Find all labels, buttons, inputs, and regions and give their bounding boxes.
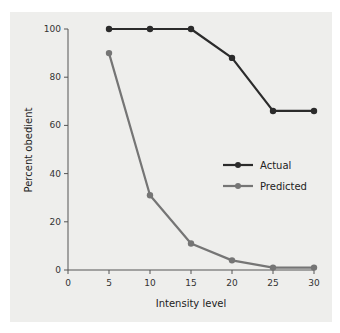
x-tick-label: 30	[308, 278, 320, 288]
axes: 020406080100051015202530	[44, 24, 320, 288]
data-point-actual	[106, 26, 112, 32]
data-point-predicted	[106, 50, 112, 56]
series-group	[106, 26, 317, 271]
data-point-actual	[311, 108, 317, 114]
legend-marker-predicted-icon	[235, 183, 241, 189]
legend-item-predicted: Predicted	[223, 181, 307, 192]
x-tick-label: 10	[144, 278, 156, 288]
legend-marker-actual-icon	[235, 162, 241, 168]
data-point-actual	[270, 108, 276, 114]
legend: Actual Predicted	[223, 160, 307, 192]
legend-label-predicted: Predicted	[260, 181, 307, 192]
x-tick-label: 5	[106, 278, 112, 288]
data-point-actual	[229, 55, 235, 61]
x-tick-label: 15	[185, 278, 196, 288]
legend-item-actual: Actual	[223, 160, 291, 171]
y-tick-label: 60	[50, 120, 62, 130]
x-axis-label: Intensity level	[156, 298, 226, 309]
x-tick-label: 25	[267, 278, 278, 288]
x-tick-label: 0	[65, 278, 71, 288]
data-point-predicted	[188, 240, 194, 246]
x-tick-label: 20	[226, 278, 238, 288]
series-line-actual	[109, 29, 314, 111]
data-point-predicted	[311, 264, 317, 270]
y-tick-label: 0	[55, 265, 61, 275]
data-point-predicted	[147, 192, 153, 198]
y-tick-label: 80	[50, 72, 62, 82]
y-tick-label: 100	[44, 24, 61, 34]
data-point-actual	[188, 26, 194, 32]
legend-label-actual: Actual	[260, 160, 291, 171]
data-point-predicted	[229, 257, 235, 263]
data-point-predicted	[270, 264, 276, 270]
line-chart: 020406080100051015202530 Intensity level…	[0, 0, 340, 333]
y-axis-label: Percent obedient	[23, 107, 34, 192]
data-point-actual	[147, 26, 153, 32]
y-tick-label: 40	[50, 169, 62, 179]
y-tick-label: 20	[50, 217, 62, 227]
